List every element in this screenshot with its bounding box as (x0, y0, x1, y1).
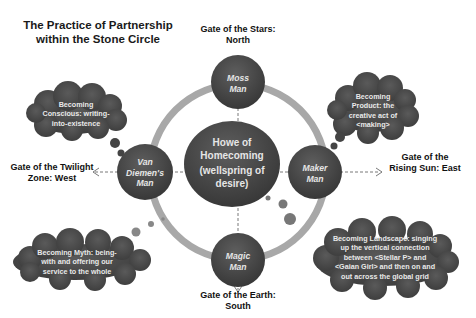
node-east-line-1: Maker (288, 163, 342, 174)
center-line-3: (wellspring of (187, 165, 277, 178)
title-line-1: The Practice of Partnership (18, 18, 178, 32)
gate-north-line-2: North (185, 35, 291, 46)
cloud-bottom-right-line-4: <Gaian Girl> and then on and (320, 262, 450, 271)
diagram-title: The Practice of Partnership within the S… (18, 18, 178, 46)
cloud-bottom-left-line-1: Becoming Myth: being- (22, 248, 132, 257)
node-north-label: Moss Man (211, 73, 265, 94)
center-line-1: Howe of (187, 137, 277, 150)
center-line-2: Homecoming (187, 150, 277, 163)
gate-north-label: Gate of the Stars: North (185, 24, 291, 46)
node-south-line-2: Man (211, 262, 265, 273)
cloud-top-right-line-2: Product: the (332, 101, 414, 110)
gate-south-line-1: Gate of the Earth: (185, 290, 291, 301)
node-north-line-1: Moss (211, 73, 265, 84)
gate-south-line-2: South (185, 301, 291, 312)
gate-east-label: Gate of the Rising Sun: East (382, 152, 468, 174)
cloud-bottom-right-label: Becoming Landscape: singing up the verti… (320, 234, 450, 281)
cloud-bottom-right-line-5: out across the global grid (320, 272, 450, 281)
cloud-top-right-line-3: creative act of (332, 111, 414, 120)
node-west-line-1: Van (117, 157, 173, 168)
cloud-bottom-left-label: Becoming Myth: being- with and offering … (22, 248, 132, 276)
diagram-canvas: The Practice of Partnership within the S… (0, 0, 476, 318)
node-east-label: Maker Man (288, 163, 342, 184)
cloud-bottom-right-line-2: up the vertical connection (320, 243, 450, 252)
cloud-top-left-line-2: Conscious: writing- (32, 109, 120, 118)
node-west-label: Van Diemen's Man (117, 157, 173, 189)
node-south-line-1: Magic (211, 251, 265, 262)
cloud-top-right-line-1: Becoming (332, 92, 414, 101)
cloud-bottom-left-line-3: service to the whole (22, 267, 132, 276)
cloud-bottom-left-line-2: with and offering our (22, 257, 132, 266)
cloud-bottom-right-bubbles (266, 196, 297, 226)
node-south-label: Magic Man (211, 251, 265, 272)
gate-east-line-2: Rising Sun: East (382, 163, 468, 174)
cloud-top-right-line-4: <making> (332, 120, 414, 129)
cloud-top-left-label: Becoming Conscious: writing- into-existe… (32, 100, 120, 128)
cloud-bottom-right-line-3: between <Stellar P> and (320, 253, 450, 262)
cloud-top-right-label: Becoming Product: the creative act of <m… (332, 92, 414, 130)
center-label: Howe of Homecoming (wellspring of desire… (187, 137, 277, 190)
cloud-bottom-right-line-1: Becoming Landscape: singing (320, 234, 450, 243)
cloud-top-left-line-1: Becoming (32, 100, 120, 109)
gate-south-label: Gate of the Earth: South (185, 290, 291, 312)
gate-east-line-1: Gate of the (382, 152, 468, 163)
gate-west-label: Gate of the Twilight Zone: West (6, 162, 98, 184)
node-east-line-2: Man (288, 174, 342, 185)
gate-north-line-1: Gate of the Stars: (185, 24, 291, 35)
cloud-bottom-left-bubbles (132, 217, 165, 236)
node-west-line-3: Man (117, 178, 173, 189)
gate-west-line-1: Gate of the Twilight (6, 162, 98, 173)
cloud-top-left-line-3: into-existence (32, 119, 120, 128)
node-west-line-2: Diemen's (117, 168, 173, 179)
center-line-4: desire) (187, 178, 277, 191)
node-north-line-2: Man (211, 84, 265, 95)
gate-west-line-2: Zone: West (6, 173, 98, 184)
title-line-2: within the Stone Circle (18, 32, 178, 46)
